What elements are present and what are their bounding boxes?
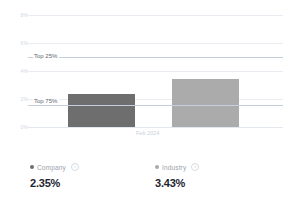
y-tick-label-4: 4% <box>10 68 28 74</box>
info-icon-industry[interactable]: i <box>191 163 199 171</box>
legend-swatch-company-icon <box>30 165 34 169</box>
gridline-4 <box>28 71 283 72</box>
y-tick-label-2: 2% <box>10 96 28 102</box>
legend-head-industry: Industry i <box>155 162 199 172</box>
reference-label-top25: Top 25% <box>33 52 59 60</box>
legend-value-company: 2.35% <box>30 176 79 190</box>
legend-item-industry[interactable]: Industry i 3.43% <box>155 162 199 190</box>
legend-swatch-industry-icon <box>155 165 159 169</box>
y-tick-label-6: 6% <box>10 40 28 46</box>
legend-label-industry: Industry <box>162 163 186 172</box>
chart-legend: Company i 2.35% Industry i 3.43% <box>0 162 289 210</box>
legend-item-company[interactable]: Company i 2.35% <box>30 162 79 190</box>
gridline-8 <box>28 15 283 16</box>
x-axis-line <box>28 127 283 128</box>
bar-industry[interactable] <box>172 79 239 127</box>
y-tick-label-8: 8% <box>10 12 28 18</box>
x-tick-label-feb-2024: Feb 2024 <box>136 130 159 137</box>
gridline-6 <box>28 43 283 44</box>
legend-label-company: Company <box>37 163 66 172</box>
y-tick-label-0: 0% <box>10 124 28 130</box>
reference-line-top75 <box>28 105 283 106</box>
benchmark-bar-chart-widget: 8% 6% 4% 2% 0% Top 25% Top 75% Feb 2024 … <box>0 0 289 210</box>
reference-line-top25 <box>28 57 283 58</box>
bar-company[interactable] <box>68 94 135 127</box>
gridline-2 <box>28 99 283 100</box>
legend-value-industry: 3.43% <box>155 176 199 190</box>
reference-label-top75: Top 75% <box>33 97 59 105</box>
chart-plot-area: 8% 6% 4% 2% 0% Top 25% Top 75% Feb 2024 <box>0 0 289 140</box>
info-icon-company[interactable]: i <box>71 163 79 171</box>
legend-head-company: Company i <box>30 162 79 172</box>
